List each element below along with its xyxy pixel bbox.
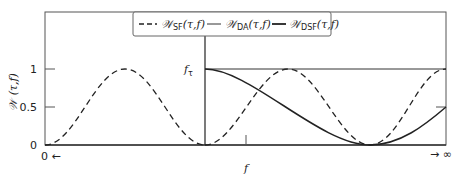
legend-da-label: 𝒲DA(τ,f) — [225, 18, 271, 32]
ytick-label-05: 0.5 — [20, 101, 38, 114]
ytick-label-1: 1 — [30, 63, 37, 76]
x-axis-label: f — [243, 162, 250, 175]
x-right-label: → ∞ — [430, 148, 452, 161]
y-axis-label: 𝒲 (τ,f) — [7, 73, 20, 111]
chart: 1 0.5 0 𝒲 (τ,f) 0 ← → ∞ f fτ 𝒲SF(τ,f) 𝒲D… — [0, 0, 459, 184]
f-tau-label: fτ — [183, 63, 193, 78]
ytick-label-0: 0 — [30, 139, 37, 152]
legend-sf-label: 𝒲SF(τ,f) — [161, 18, 205, 32]
series-sf-left — [45, 69, 205, 145]
x-left-label: 0 ← — [41, 150, 61, 163]
legend: 𝒲SF(τ,f) 𝒲DA(τ,f) 𝒲DSF(τ,f) — [133, 12, 339, 36]
series-dsf — [205, 69, 446, 145]
